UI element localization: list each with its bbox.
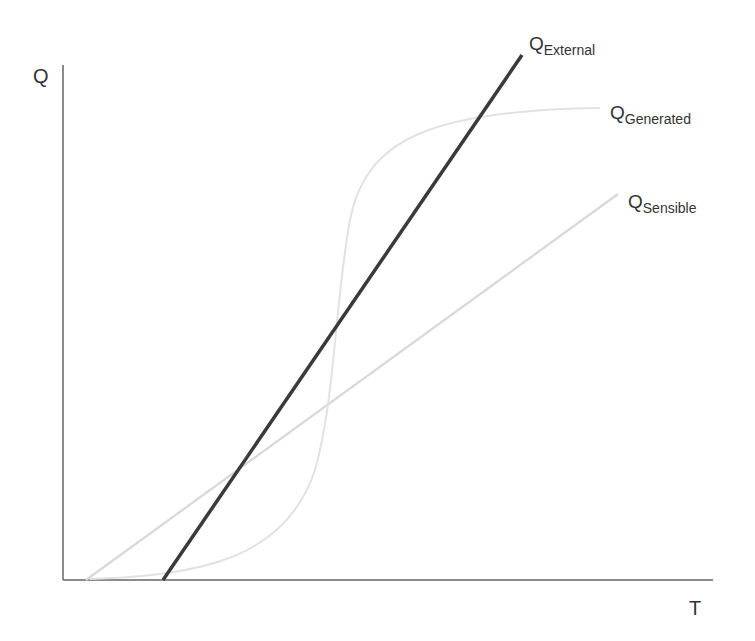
x-axis-label: T xyxy=(689,598,701,618)
label-q-external: QExternal xyxy=(529,34,595,57)
label-main: Q xyxy=(628,191,643,212)
label-sub: Sensible xyxy=(643,200,697,216)
label-q-generated: QGenerated xyxy=(610,103,691,126)
curve-q-generated xyxy=(90,108,600,579)
label-main: Q xyxy=(610,102,625,123)
plot-canvas xyxy=(0,0,755,641)
y-axis-label: Q xyxy=(33,66,49,86)
label-sub: External xyxy=(544,42,595,58)
curve-q-external xyxy=(163,55,522,580)
curve-q-sensible xyxy=(86,194,618,580)
label-main: Q xyxy=(529,33,544,54)
label-sub: Generated xyxy=(625,111,691,127)
label-q-sensible: QSensible xyxy=(628,192,696,215)
